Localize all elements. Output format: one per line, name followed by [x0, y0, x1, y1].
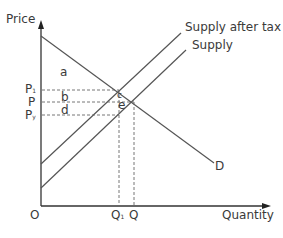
area-e-label: e	[118, 99, 125, 111]
area-d-label: d	[61, 104, 69, 116]
area-b-label: b	[61, 91, 69, 103]
price-label-py: Py	[25, 109, 36, 121]
tax-diagram	[0, 0, 283, 238]
quantity-label-q: Q	[129, 209, 138, 221]
quantity-label-q1: Q1	[111, 209, 124, 221]
supply-after-tax-label: Supply after tax	[185, 21, 281, 33]
area-a-label: a	[60, 66, 67, 78]
demand-label: D	[215, 160, 224, 172]
supply-label: Supply	[192, 39, 233, 51]
x-axis-label: Quantity	[222, 209, 274, 221]
y-axis-label: Price	[6, 13, 35, 25]
origin-label: O	[30, 209, 39, 221]
price-label-p: P	[28, 96, 35, 108]
y-axis-arrow-icon	[38, 20, 44, 29]
price-label-p1: P1	[25, 83, 36, 95]
